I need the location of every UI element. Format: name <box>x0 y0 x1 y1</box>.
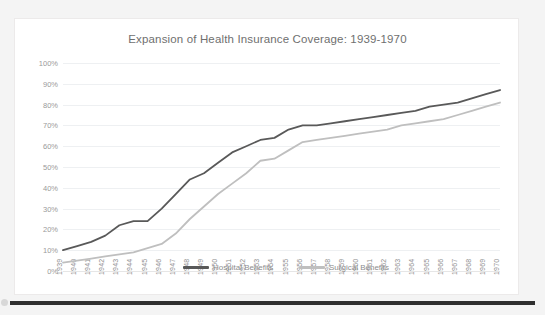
chart-panel: Expansion of Health Insurance Coverage: … <box>14 18 519 295</box>
y-axis-tick-label: 40% <box>43 183 58 192</box>
y-axis-tick-label: 70% <box>43 121 58 130</box>
x-axis-tick-label: 1939 <box>56 259 63 275</box>
y-axis-tick-label: 90% <box>43 79 58 88</box>
y-axis-tick-label: 10% <box>43 246 58 255</box>
y-axis-tick-label: 100% <box>39 59 58 68</box>
y-axis-tick-label: 20% <box>43 225 58 234</box>
chart-title: Expansion of Health Insurance Coverage: … <box>15 33 520 45</box>
series-line-1 <box>63 90 500 250</box>
window-corner-dot <box>1 299 8 306</box>
window-bottom-bar <box>10 301 535 305</box>
legend-swatch-icon <box>299 266 325 269</box>
plot-area: 0%10%20%30%40%50%60%70%80%90%100% 193919… <box>63 63 500 271</box>
legend-label: Hospital Benefits <box>213 263 273 272</box>
series-line-2 <box>63 103 500 263</box>
legend-item[interactable]: Hospital Benefits <box>183 263 273 272</box>
series-lines <box>63 63 500 271</box>
chart-legend: Hospital BenefitsSurgical Benefits <box>183 263 389 272</box>
legend-swatch-icon <box>183 266 209 269</box>
screenshot-root: Expansion of Health Insurance Coverage: … <box>0 0 545 315</box>
y-axis-tick-label: 50% <box>43 163 58 172</box>
y-axis-tick-label: 60% <box>43 142 58 151</box>
legend-label: Surgical Benefits <box>329 263 389 272</box>
y-axis-tick-label: 80% <box>43 100 58 109</box>
y-axis-tick-label: 30% <box>43 204 58 213</box>
legend-item[interactable]: Surgical Benefits <box>299 263 389 272</box>
